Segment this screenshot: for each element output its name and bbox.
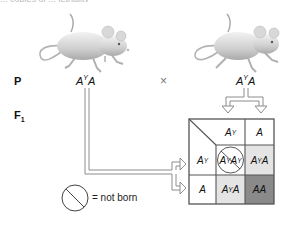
allele: A bbox=[225, 127, 232, 138]
legend-not-born-label: = not born bbox=[92, 192, 137, 203]
allele: A bbox=[253, 184, 260, 195]
cell-ay-ay: AYAY bbox=[216, 145, 245, 175]
row-header-2: A bbox=[189, 175, 216, 204]
parent-left-genotype: AYA bbox=[76, 74, 95, 87]
cell-ay-a-bottom: AYA bbox=[216, 175, 245, 204]
generation-label-f1: F1 bbox=[14, 109, 25, 123]
allele: A bbox=[222, 184, 229, 195]
row-header-1: AY bbox=[189, 145, 216, 175]
allele-superscript: Y bbox=[232, 129, 236, 136]
allele: A bbox=[251, 155, 258, 166]
cell-ay-a-top: AYA bbox=[245, 145, 274, 175]
generation-label-p: P bbox=[14, 75, 21, 87]
cross-symbol: × bbox=[160, 74, 167, 88]
f1-letter: F bbox=[14, 109, 21, 121]
parent-right-genotype: AYA bbox=[236, 74, 255, 87]
mouse-icon-left bbox=[40, 14, 129, 72]
f1-subscript: 1 bbox=[21, 116, 25, 123]
not-born-icon bbox=[62, 185, 88, 211]
column-header-1: AY bbox=[216, 119, 245, 145]
column-header-2: A bbox=[245, 119, 274, 145]
allele-superscript: Y bbox=[204, 157, 208, 164]
allele: A bbox=[256, 127, 263, 138]
allele: A bbox=[88, 75, 95, 87]
allele: A bbox=[231, 155, 238, 166]
cell-a-a: AA bbox=[245, 175, 274, 204]
allele: A bbox=[199, 184, 206, 195]
allele: A bbox=[248, 75, 255, 87]
allele: A bbox=[262, 155, 269, 166]
allele: A bbox=[260, 184, 267, 195]
right-gamete-connector bbox=[222, 88, 267, 113]
allele: A bbox=[233, 184, 240, 195]
left-gamete-connector bbox=[85, 88, 186, 194]
allele: A bbox=[219, 155, 226, 166]
allele: A bbox=[197, 155, 204, 166]
mouse-icon-right bbox=[195, 14, 279, 72]
allele-superscript: Y bbox=[237, 157, 241, 164]
